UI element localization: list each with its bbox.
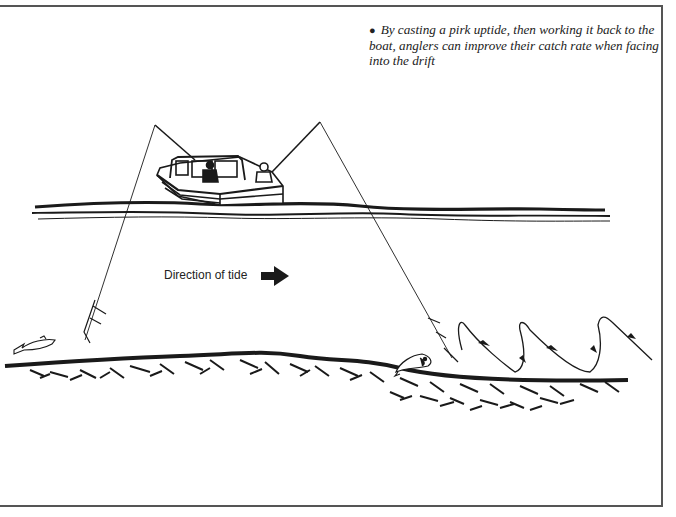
caption-body: By casting a pirk uptide, then working i… [369, 22, 659, 68]
pirk-fishing-illustration [0, 0, 676, 517]
pirk-right [428, 318, 458, 362]
frame-border [0, 6, 663, 507]
water-surface [32, 203, 610, 222]
caption-text: ●By casting a pirk uptide, then working … [369, 22, 659, 68]
tide-direction-label: Direction of tide [164, 268, 247, 282]
fishing-lines [85, 122, 452, 358]
pirk-left [84, 300, 106, 343]
direction-arrows [478, 333, 636, 363]
fish-icon-left [14, 336, 55, 354]
sea-bed [5, 353, 628, 410]
bullet-icon: ● [369, 24, 376, 36]
illustration-frame [0, 0, 676, 517]
arrow-right-icon [261, 266, 289, 286]
boat-icon [157, 156, 283, 205]
